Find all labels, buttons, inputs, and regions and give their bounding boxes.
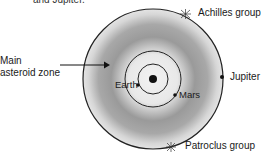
jupiter-label: Jupiter [230,71,260,82]
earth-label: Earth [115,79,138,90]
main-zone-label-line1: Main [0,55,22,66]
sun-icon [149,75,157,83]
patroclus-group-label: Patroclus group [185,140,255,151]
achilles-group-label: Achilles group [198,7,261,18]
main-zone-label-line2: asteroid zone [0,67,60,78]
mars-dot [173,93,177,97]
achilles-cluster-icon [180,9,191,19]
patroclus-cluster-icon [166,142,176,152]
jupiter-dot [220,75,224,79]
mars-label: Mars [179,89,200,100]
